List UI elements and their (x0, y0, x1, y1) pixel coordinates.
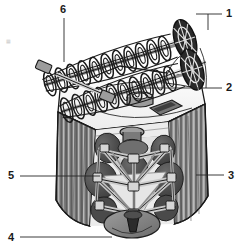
cutaway-illustration (0, 0, 240, 244)
callout-label-5: 5 (8, 170, 14, 181)
technical-figure: 1 2 3 4 5 6 ▦ (0, 0, 240, 244)
corner-artifact-mark: ▦ (6, 39, 11, 44)
callout-label-6: 6 (60, 4, 66, 15)
bottom-cone-hopper (104, 210, 160, 238)
callout-label-3: 3 (228, 170, 234, 181)
callout-label-1: 1 (226, 8, 232, 19)
callout-label-4: 4 (8, 232, 14, 243)
callout-label-2: 2 (226, 82, 232, 93)
